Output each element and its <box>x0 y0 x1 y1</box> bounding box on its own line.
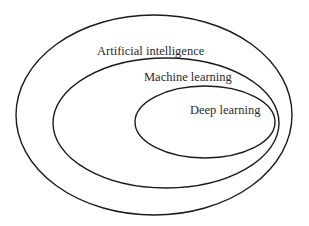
nested-venn-diagram: Artificial intelligence Machine learning… <box>0 0 309 226</box>
ai-label: Artificial intelligence <box>97 44 205 58</box>
ml-label: Machine learning <box>144 70 233 84</box>
dl-ellipse <box>135 86 275 158</box>
dl-label: Deep learning <box>190 103 261 117</box>
